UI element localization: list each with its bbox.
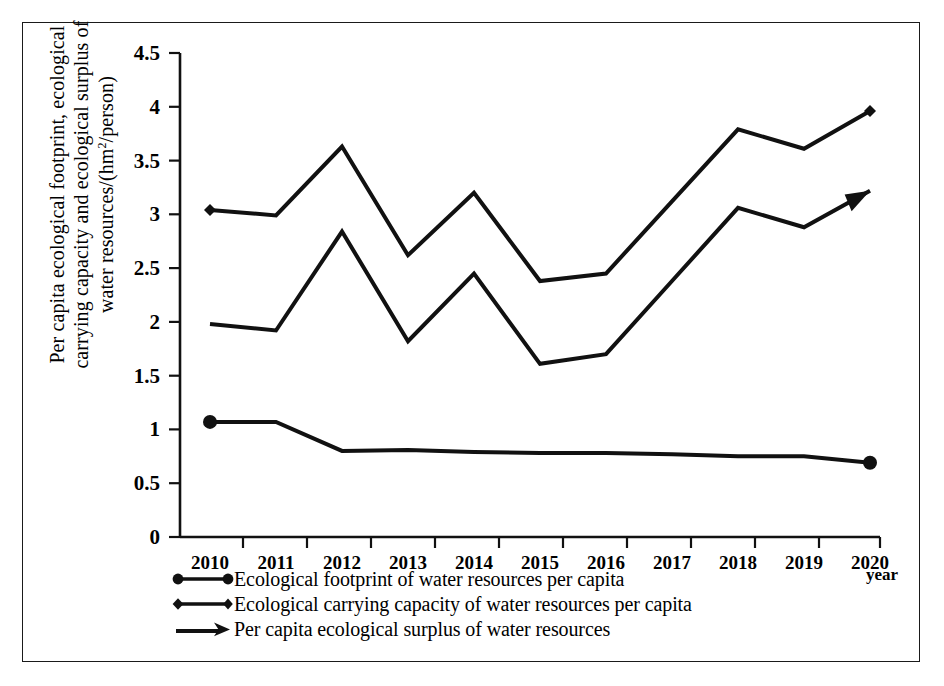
y-tick-label: 0.5	[108, 471, 160, 496]
circle-line-icon	[172, 568, 234, 590]
y-tick-label: 2	[108, 309, 160, 334]
series-line-carrying-capacity	[210, 111, 870, 281]
legend-label-footprint: Ecological footprint of water resources …	[234, 569, 624, 589]
y-tick-label: 0	[108, 525, 160, 550]
legend-item-surplus: Per capita ecological surplus of water r…	[172, 616, 792, 641]
legend-item-carrying-capacity: Ecological carrying capacity of water re…	[172, 591, 792, 616]
y-tick-label: 4	[108, 94, 160, 119]
legend-label-surplus: Per capita ecological surplus of water r…	[234, 619, 610, 639]
diamond-line-icon	[172, 593, 234, 615]
figure-container: Per capita ecological footprint, ecologi…	[0, 0, 944, 686]
y-tick-label: 3	[108, 202, 160, 227]
y-tick-label: 1.5	[108, 363, 160, 388]
y-tick-label: 4.5	[108, 41, 160, 66]
series-endpoint-circle-icon	[203, 415, 217, 429]
series-endpoint-diamond-icon	[204, 204, 216, 216]
arrow-line-icon	[172, 618, 234, 640]
series-line-ecological-surplus	[210, 191, 870, 364]
x-axis-title: year	[866, 565, 898, 585]
series-endpoint-arrow-icon	[845, 191, 870, 211]
x-axis-ticks	[243, 537, 880, 548]
legend-label-carrying-capacity: Ecological carrying capacity of water re…	[234, 594, 692, 614]
legend-item-footprint: Ecological footprint of water resources …	[172, 566, 792, 591]
series-line-ecological-footprint	[210, 422, 870, 463]
y-tick-label: 2.5	[108, 256, 160, 281]
series-endpoint-circle-icon	[863, 456, 877, 470]
y-tick-label: 1	[108, 417, 160, 442]
chart-legend: Ecological footprint of water resources …	[172, 566, 792, 641]
y-tick-label: 3.5	[108, 148, 160, 173]
y-axis-ticks	[169, 53, 180, 537]
